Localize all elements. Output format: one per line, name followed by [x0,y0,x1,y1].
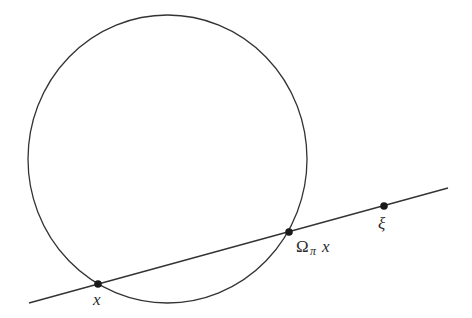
label-omega-pi-x: Ω π x [296,237,330,259]
point-xi [380,202,388,210]
label-omega-subscript: π [310,244,317,258]
label-xi: ξ [378,214,386,233]
circle [28,15,307,303]
point-x [94,280,102,288]
label-x: x [92,290,101,309]
label-omega-suffix: x [321,237,330,256]
geometry-diagram: x Ω π x ξ [0,0,472,318]
point-omega-pi-x [285,228,293,236]
label-omega-main: Ω [296,237,309,256]
